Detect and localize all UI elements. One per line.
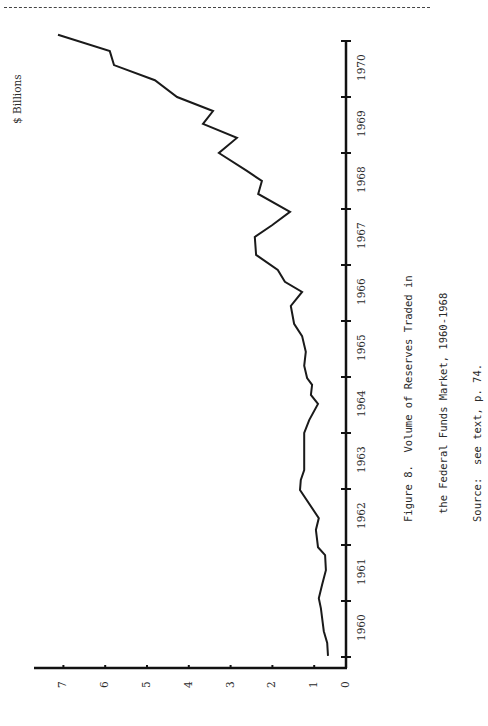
year-tick-label: 1969: [356, 110, 367, 137]
year-tick-label: 1966: [356, 278, 367, 305]
caption-line-2: the Federal Funds Market, 1960-1968: [438, 275, 450, 522]
value-tick-label: 2: [266, 681, 277, 688]
year-tick-label: 1967: [356, 222, 367, 249]
year-tick-label: 1964: [356, 390, 367, 417]
figure-caption: Figure 8. Volume of Reserves Traded in t…: [380, 275, 488, 522]
value-tick-label: 7: [57, 681, 68, 688]
y-axis-title: $ Billions: [12, 74, 23, 124]
year-tick-label: 1965: [356, 334, 367, 361]
year-tick-label: 1962: [356, 502, 367, 529]
year-tick-label: 1960: [356, 614, 367, 641]
value-tick-label: 3: [225, 681, 236, 688]
data-series-line: [58, 35, 328, 656]
year-tick-label: 1963: [356, 446, 367, 473]
value-tick-label: 5: [141, 681, 152, 688]
year-tick-label: 1968: [356, 166, 367, 193]
caption-line-1: Figure 8. Volume of Reserves Traded in: [403, 275, 415, 522]
chart-axes: [34, 41, 351, 668]
year-tick-label: 1961: [356, 558, 367, 585]
value-tick-label: 6: [99, 681, 110, 688]
value-tick-label: 0: [340, 681, 351, 688]
caption-line-3: Source: see text, p. 74.: [472, 275, 484, 522]
value-tick-label: 1: [308, 681, 319, 688]
value-tick-label: 4: [183, 681, 194, 688]
year-tick-label: 1970: [356, 54, 367, 81]
